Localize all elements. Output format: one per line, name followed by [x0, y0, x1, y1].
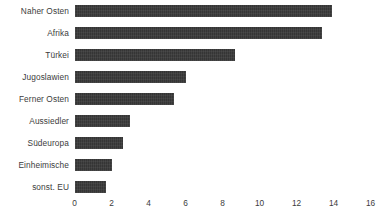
bar-afrika: [75, 27, 323, 39]
x-tick-label: 6: [171, 198, 201, 208]
bar-row: Naher Osten: [0, 0, 385, 22]
bar-track: [75, 115, 371, 127]
category-label: Jugoslawien: [0, 72, 69, 82]
plot-area: Naher Osten Afrika Türkei Jugoslawien Fe: [0, 0, 385, 190]
bar-naher-osten: [75, 5, 332, 17]
bar-track: [75, 49, 371, 61]
x-tick-label: 2: [97, 198, 127, 208]
x-tick-label: 10: [245, 198, 275, 208]
bar-row: Aussiedler: [0, 110, 385, 132]
bar-track: [75, 93, 371, 105]
x-tick-label: 14: [319, 198, 349, 208]
x-tick-label: 0: [60, 198, 90, 208]
bar-chart: Naher Osten Afrika Türkei Jugoslawien Fe: [0, 0, 385, 219]
bar-row: Jugoslawien: [0, 66, 385, 88]
bar-track: [75, 5, 371, 17]
bar-track: [75, 27, 371, 39]
bar-row: Südeuropa: [0, 132, 385, 154]
bar-jugoslawien: [75, 71, 186, 83]
category-label: Südeuropa: [0, 138, 69, 148]
bar-row: Ferner Osten: [0, 88, 385, 110]
bar-ferner-osten: [75, 93, 175, 105]
category-label: Ferner Osten: [0, 94, 69, 104]
x-axis: 0 2 4 6 8 10 12 14 16: [0, 190, 385, 219]
category-label: Einheimische: [0, 160, 69, 170]
category-label: Naher Osten: [0, 6, 69, 16]
bar-aussiedler: [75, 115, 131, 127]
bar-tuerkei: [75, 49, 236, 61]
x-tick-label: 16: [356, 198, 385, 208]
bar-row: Einheimische: [0, 154, 385, 176]
bar-track: [75, 137, 371, 149]
category-label: Afrika: [0, 28, 69, 38]
x-tick-label: 4: [134, 198, 164, 208]
bar-suedeuropa: [75, 137, 123, 149]
bar-row: Türkei: [0, 44, 385, 66]
x-tick-label: 8: [208, 198, 238, 208]
bar-track: [75, 71, 371, 83]
category-label: Aussiedler: [0, 116, 69, 126]
bar-track: [75, 159, 371, 171]
bar-einheimische: [75, 159, 112, 171]
category-label: Türkei: [0, 50, 69, 60]
x-tick-label: 12: [282, 198, 312, 208]
bar-row: Afrika: [0, 22, 385, 44]
